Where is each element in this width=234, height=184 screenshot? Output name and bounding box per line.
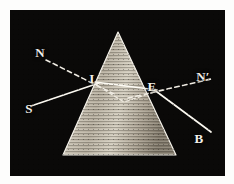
label-normal-N: N [35, 46, 45, 59]
label-source-S: S [25, 102, 33, 115]
label-point-I: I [89, 72, 94, 85]
photographic-plate-background: N I E N S B [10, 10, 225, 176]
label-point-E: E [148, 80, 157, 93]
diagram-vector-layer [10, 10, 225, 176]
label-beam-B: B [195, 132, 204, 145]
label-normal-N-prime: N [196, 70, 210, 83]
optics-prism-figure: N I E N S B [0, 0, 234, 184]
